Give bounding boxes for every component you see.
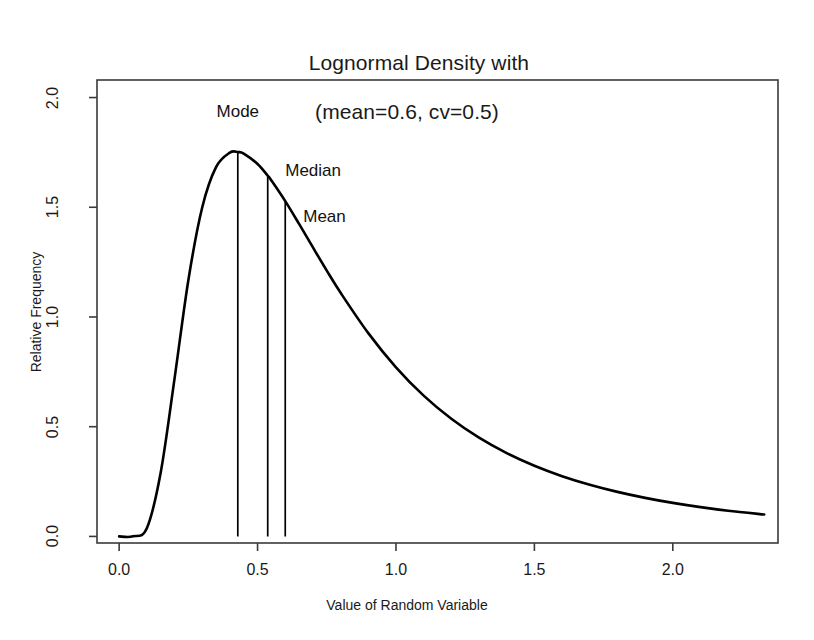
- x-axis-label: Value of Random Variable: [0, 597, 814, 614]
- x-tick-label: 0.0: [89, 561, 149, 580]
- x-tick-label: 1.5: [504, 561, 564, 580]
- chart-title-line-1: Lognormal Density with: [309, 51, 529, 74]
- annotation-label-median: Median: [285, 161, 341, 181]
- chart-title: Lognormal Density with (mean=0.6, cv=0.5…: [0, 26, 814, 175]
- y-tick-label: 0.5: [44, 404, 63, 450]
- x-tick-label: 0.5: [228, 561, 288, 580]
- y-tick-label: 1.5: [44, 184, 63, 230]
- y-tick-label: 0.0: [44, 513, 63, 559]
- annotation-lines: [238, 152, 285, 536]
- y-axis-label: Relative Frequency: [28, 212, 45, 412]
- annotation-label-mode: Mode: [0, 102, 476, 122]
- chart-figure: Lognormal Density with (mean=0.6, cv=0.5…: [0, 0, 814, 640]
- annotation-label-mean: Mean: [303, 207, 346, 227]
- density-curve: [119, 151, 764, 537]
- x-tick-label: 1.0: [366, 561, 426, 580]
- x-tick-label: 2.0: [643, 561, 703, 580]
- y-tick-label: 1.0: [44, 294, 63, 340]
